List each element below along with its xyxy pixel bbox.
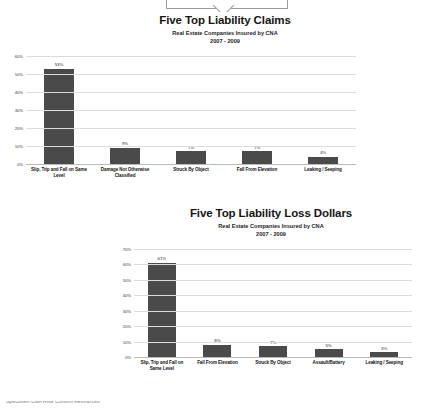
y-axis-tick-label: 50% — [15, 72, 23, 77]
bar-value-label: 53% — [55, 62, 64, 67]
bar-slot[interactable]: 3% — [356, 243, 412, 357]
chart-loss-plot-area: 0%10%20%30%40%50%60%70% 61%8%7%5%3% Slip… — [112, 243, 412, 373]
gridline — [26, 164, 356, 165]
bar[interactable] — [203, 345, 231, 357]
bar[interactable] — [110, 148, 140, 164]
top-ribbon-banner — [0, 0, 430, 12]
footer-cutoff-label: Specimen CNA Risk Control Resources — [6, 401, 206, 405]
y-axis-tick-label: 40% — [15, 90, 23, 95]
y-axis-tick-label: 0% — [125, 355, 131, 360]
chart-loss-subtitle-2: 2007 - 2009 — [112, 230, 430, 238]
chart-claims-subtitle-2: 2007 - 2009 — [94, 37, 356, 45]
category-label: Leaking / Seeping — [290, 167, 356, 173]
chart-liability-loss-dollars: Five Top Liability Loss Dollars Real Est… — [112, 207, 430, 373]
category-label: Struck By Object — [245, 360, 301, 366]
chart-liability-claims: Five Top Liability Claims Real Estate Co… — [4, 14, 356, 180]
bar-slot[interactable]: 5% — [301, 243, 357, 357]
y-axis-tick-label: 10% — [123, 339, 131, 344]
y-axis-tick-label: 30% — [15, 108, 23, 113]
gridline — [26, 56, 356, 57]
gridline — [26, 128, 356, 129]
bar-slot[interactable]: 7% — [245, 243, 301, 357]
gridline — [134, 326, 412, 327]
chart-loss-y-axis: 0%10%20%30%40%50%60%70% — [112, 243, 134, 373]
gridline — [134, 280, 412, 281]
gridline — [134, 342, 412, 343]
y-axis-tick-label: 50% — [123, 277, 131, 282]
category-label: Slip, Trip and Fall on Same Level — [134, 360, 190, 372]
gridline — [26, 110, 356, 111]
bar-value-label: 5% — [326, 343, 332, 348]
bar-slot[interactable]: 61% — [134, 243, 190, 357]
y-axis-tick-label: 20% — [15, 126, 23, 131]
chart-claims-subtitle-1: Real Estate Companies Insured by CNA — [94, 29, 356, 37]
chart-loss-bars: 61%8%7%5%3% — [134, 243, 412, 373]
footer-cutoff-text: Specimen CNA Risk Control Resources — [6, 401, 206, 408]
gridline — [26, 92, 356, 93]
gridline — [134, 264, 412, 265]
category-label: Slip, Trip and Fall on Same Level — [26, 167, 92, 179]
bar-value-label: 4% — [320, 150, 326, 155]
bar-value-label: 61% — [158, 256, 167, 261]
bar[interactable] — [44, 69, 74, 164]
category-label: Damage Not Otherwise Classified — [92, 167, 158, 179]
ribbon-notch-icon — [213, 0, 234, 12]
gridline — [26, 146, 356, 147]
category-label: Leaking / Seeping — [356, 360, 412, 366]
chart-claims-plot-area: 0%10%20%30%40%50%60% 53%9%7%7%4% Slip, T… — [4, 50, 356, 180]
category-label: Fall From Elevation — [224, 167, 290, 173]
y-axis-tick-label: 0% — [17, 162, 23, 167]
gridline — [134, 311, 412, 312]
bar[interactable] — [259, 346, 287, 357]
y-axis-tick-label: 60% — [123, 262, 131, 267]
bar[interactable] — [176, 151, 206, 164]
y-axis-tick-label: 10% — [15, 144, 23, 149]
y-axis-tick-label: 40% — [123, 293, 131, 298]
category-label: Fall From Elevation — [190, 360, 246, 366]
y-axis-tick-label: 60% — [15, 54, 23, 59]
category-label: Struck By Object — [158, 167, 224, 173]
chart-loss-titles: Five Top Liability Loss Dollars Real Est… — [112, 207, 430, 238]
bar-slot[interactable]: 8% — [190, 243, 246, 357]
gridline — [134, 295, 412, 296]
chart-claims-title: Five Top Liability Claims — [94, 14, 356, 27]
chart-claims-y-axis: 0%10%20%30%40%50%60% — [4, 50, 26, 180]
gridline — [134, 249, 412, 250]
chart-loss-subtitle-1: Real Estate Companies Insured by CNA — [112, 222, 430, 230]
chart-claims-titles: Five Top Liability Claims Real Estate Co… — [4, 14, 356, 45]
chart-loss-title: Five Top Liability Loss Dollars — [112, 207, 430, 220]
category-label: Assault/Battery — [301, 360, 357, 366]
gridline — [26, 74, 356, 75]
bar[interactable] — [308, 157, 338, 164]
bar[interactable] — [242, 151, 272, 164]
bar-value-label: 3% — [381, 346, 387, 351]
bar[interactable] — [315, 349, 343, 357]
y-axis-tick-label: 30% — [123, 308, 131, 313]
y-axis-tick-label: 20% — [123, 324, 131, 329]
chart-claims-bars: 53%9%7%7%4% — [26, 50, 356, 180]
gridline — [134, 357, 412, 358]
y-axis-tick-label: 70% — [123, 247, 131, 252]
